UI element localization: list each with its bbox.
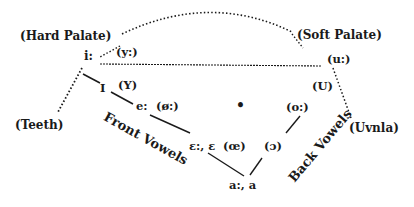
vowel-o-long: (o:) [286, 102, 309, 114]
vowel-e-long: e: [136, 101, 148, 113]
vowel-ae: (œ) [223, 141, 246, 153]
vowel-a: a:, a [229, 180, 256, 192]
vowel-i-long: i: [84, 50, 93, 62]
vowel-Y-short: (Y) [118, 80, 137, 92]
back-line-2 [286, 116, 300, 133]
label-uvula: (Uvnla) [349, 122, 399, 134]
top-line [100, 64, 322, 66]
vowel-u-long: (u:) [327, 54, 351, 66]
vowel-I-short: I [100, 83, 105, 95]
front-line-3 [150, 115, 190, 133]
vowel-U-short: (U) [312, 81, 333, 93]
vowel-y-long: (y:) [116, 47, 138, 59]
label-hard-palate: (Hard Palate) [20, 30, 111, 42]
vowel-eps: ɛ:, ɛ [189, 141, 215, 153]
label-teeth: (Teeth) [15, 119, 63, 131]
vowel-oe-long: (ø:) [156, 101, 179, 113]
front-line-2 [111, 92, 133, 104]
vowel-diagram: (Hard Palate) (Soft Palate) (Teeth) (Uvn… [0, 0, 414, 207]
front-line-4 [208, 153, 244, 176]
label-soft-palate: (Soft Palate) [297, 29, 382, 41]
back-line-1 [250, 158, 262, 175]
palate-arc [122, 12, 292, 34]
front-line-1 [83, 74, 100, 83]
i-to-teeth [58, 68, 82, 112]
central-dot: • [236, 98, 245, 112]
vowel-open-o: (ɔ) [264, 141, 282, 153]
